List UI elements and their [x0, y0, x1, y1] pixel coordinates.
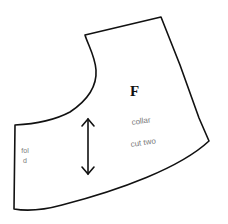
pattern-canvas	[0, 0, 228, 224]
fold-label: fold	[21, 146, 29, 166]
pattern-piece-outline	[14, 17, 209, 210]
piece-letter: F	[130, 83, 139, 100]
